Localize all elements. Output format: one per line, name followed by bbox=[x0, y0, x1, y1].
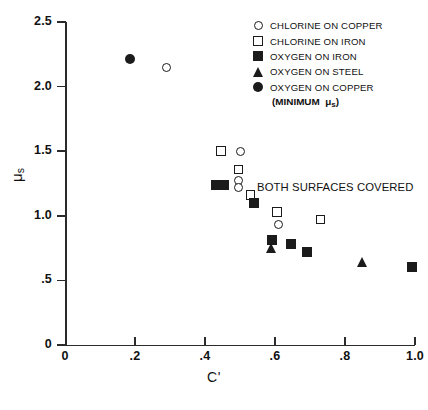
data-point-filled-square bbox=[302, 247, 312, 257]
y-axis-tick bbox=[57, 215, 66, 217]
legend-marker-open-square-icon bbox=[246, 36, 270, 46]
data-point-filled-square bbox=[407, 262, 417, 272]
data-point-filled-circle bbox=[125, 54, 135, 64]
legend-marker-filled-circle-icon bbox=[246, 82, 270, 92]
x-axis-tick-label: 0 bbox=[45, 349, 85, 363]
x-axis-tick bbox=[134, 337, 136, 345]
y-axis-tick-label: .5 bbox=[6, 272, 52, 286]
x-axis-tick bbox=[274, 337, 276, 345]
legend-marker-open-circle-icon bbox=[246, 21, 270, 30]
y-axis-line bbox=[65, 22, 67, 345]
y-axis-tick bbox=[57, 150, 66, 152]
y-axis-tick-label: 1.0 bbox=[6, 208, 52, 222]
legend-label: CHLORINE ON IRON bbox=[270, 36, 366, 47]
x-axis-tick-label: 1.0 bbox=[395, 349, 428, 363]
x-axis-tick-label: .8 bbox=[325, 349, 365, 363]
chart-annotation: BOTH SURFACES COVERED bbox=[257, 181, 414, 193]
x-axis-tick bbox=[204, 337, 206, 345]
legend-marker-filled-triangle-icon bbox=[246, 67, 270, 77]
data-point-filled-triangle bbox=[357, 257, 367, 267]
y-axis-label: μs bbox=[8, 168, 26, 182]
legend-label: OXYGEN ON IRON bbox=[270, 51, 357, 62]
data-point-open-circle bbox=[162, 63, 171, 72]
y-axis-tick-label: 2.0 bbox=[6, 79, 52, 93]
x-axis-line bbox=[65, 345, 415, 347]
legend-item: OXYGEN ON COPPER bbox=[246, 80, 426, 95]
x-axis-tick bbox=[344, 337, 346, 345]
y-axis-tick bbox=[57, 21, 66, 23]
y-axis-tick-label: 2.5 bbox=[6, 14, 52, 28]
data-point-filled-triangle bbox=[266, 243, 276, 253]
data-point-open-circle bbox=[234, 183, 243, 192]
y-axis-tick-label: 1.5 bbox=[6, 143, 52, 157]
data-point-open-square bbox=[272, 207, 282, 217]
legend-item: CHLORINE ON COPPER bbox=[246, 18, 426, 33]
x-axis-tick bbox=[414, 337, 416, 345]
legend-item: OXYGEN ON IRON bbox=[246, 49, 426, 64]
x-axis-tick-label: .6 bbox=[255, 349, 295, 363]
legend-item: OXYGEN ON STEEL bbox=[246, 64, 426, 79]
legend-label: OXYGEN ON COPPER bbox=[270, 82, 374, 93]
chart-legend: CHLORINE ON COPPERCHLORINE ON IRONOXYGEN… bbox=[246, 18, 426, 109]
legend-note: (MINIMUM μs) bbox=[246, 96, 426, 109]
scatter-chart-figure: 0.51.01.52.02.50.2.4.6.81.0 μs C' BOTH S… bbox=[0, 0, 428, 410]
data-point-open-circle bbox=[274, 220, 283, 229]
legend-item: CHLORINE ON IRON bbox=[246, 33, 426, 48]
legend-marker-filled-square-icon bbox=[246, 51, 270, 61]
data-point-open-circle bbox=[236, 147, 245, 156]
data-point-filled-square bbox=[286, 239, 296, 249]
x-axis-tick-label: .2 bbox=[115, 349, 155, 363]
data-point-open-square bbox=[234, 165, 244, 175]
data-point-open-square bbox=[316, 215, 326, 225]
x-axis-tick-label: .4 bbox=[185, 349, 225, 363]
data-point-filled-square bbox=[219, 180, 229, 190]
legend-label: OXYGEN ON STEEL bbox=[270, 66, 363, 77]
y-axis-tick bbox=[57, 86, 66, 88]
y-axis-tick bbox=[57, 344, 66, 346]
data-point-filled-square bbox=[249, 198, 259, 208]
legend-label: CHLORINE ON COPPER bbox=[270, 20, 383, 31]
x-axis-label: C' bbox=[0, 369, 428, 385]
y-axis-tick bbox=[57, 280, 66, 282]
data-point-open-square bbox=[216, 146, 226, 156]
